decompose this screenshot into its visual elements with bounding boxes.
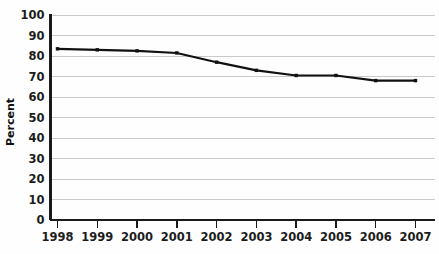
x-tick-label-2004: 2004 [280, 230, 312, 244]
y-tick-label-80: 80 [28, 49, 44, 63]
data-point-2005 [334, 74, 337, 77]
y-tick-label-60: 60 [28, 90, 44, 104]
x-tick-label-2005: 2005 [320, 230, 352, 244]
data-point-2004 [294, 74, 297, 77]
y-tick-label-50: 50 [28, 111, 44, 125]
data-point-1999 [96, 48, 99, 51]
data-point-2003 [255, 69, 258, 72]
data-point-2002 [215, 60, 218, 63]
chart-container: 0102030405060708090100 19981999200020012… [0, 0, 439, 254]
x-tick-label-2006: 2006 [360, 230, 392, 244]
y-tick-label-70: 70 [28, 70, 44, 84]
data-point-2006 [374, 79, 377, 82]
x-tick-label-1998: 1998 [41, 230, 73, 244]
y-tick-label-0: 0 [36, 213, 44, 227]
y-tick-label-100: 100 [20, 8, 44, 22]
series-line-1 [58, 49, 416, 81]
y-tick-label-30: 30 [28, 152, 44, 166]
x-tick-label-2007: 2007 [399, 230, 431, 244]
x-axis-tickmarks [58, 221, 416, 228]
x-tick-label-2002: 2002 [201, 230, 233, 244]
y-axis-title: Percent [4, 98, 17, 146]
x-tick-label-2000: 2000 [121, 230, 153, 244]
x-tick-label-2001: 2001 [161, 230, 193, 244]
data-point-1998 [56, 47, 59, 50]
gridlines [51, 15, 435, 200]
y-tick-label-90: 90 [28, 29, 44, 43]
x-axis-tick-labels: 1998199920002001200220032004200520062007 [41, 230, 431, 244]
y-tick-label-10: 10 [28, 193, 44, 207]
data-point-2000 [135, 49, 138, 52]
x-tick-label-2003: 2003 [240, 230, 272, 244]
y-tick-label-20: 20 [28, 172, 44, 186]
y-tick-label-40: 40 [28, 131, 44, 145]
y-axis-tick-labels: 0102030405060708090100 [20, 8, 44, 227]
line-chart: 0102030405060708090100 19981999200020012… [0, 0, 439, 254]
data-point-2001 [175, 51, 178, 54]
data-point-2007 [414, 79, 417, 82]
data-series [56, 47, 417, 82]
x-tick-label-1999: 1999 [81, 230, 113, 244]
